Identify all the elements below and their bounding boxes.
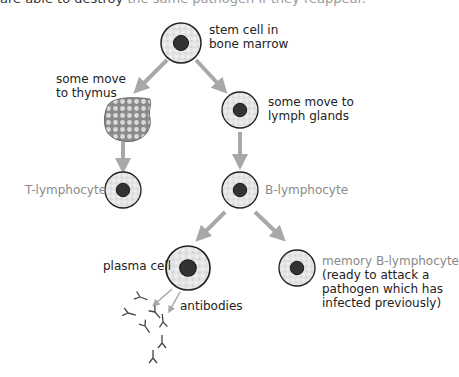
arrow-to-thymus <box>139 60 167 88</box>
antibodies-group <box>122 292 167 363</box>
stem-cell <box>161 23 201 63</box>
label-t-lymphocyte: T-lymphocyte <box>25 183 106 197</box>
antibody-arrow-2 <box>170 292 180 310</box>
label-b-lymphocyte: B-lymphocyte <box>265 183 348 197</box>
label-line: stem cell in <box>209 23 288 37</box>
plasma-cell <box>166 246 210 290</box>
antibody-icon <box>149 350 157 363</box>
antibody-arrow-1 <box>155 289 172 304</box>
label-line: to thymus <box>56 86 126 100</box>
label-antibodies: antibodies <box>180 299 243 313</box>
arrow-to-plasma-cell <box>201 212 225 236</box>
label-line: (ready to attack a <box>322 268 459 282</box>
label-memory: memory B-lymphocyte (ready to attack a p… <box>322 254 459 310</box>
memory-b-lymphocyte-cell <box>279 250 315 286</box>
antibody-icon <box>158 335 166 348</box>
label-lymph-glands: some move to lymph glands <box>268 95 354 123</box>
label-line: some move to <box>268 95 354 109</box>
antibody-icon <box>134 292 149 304</box>
antibody-icon <box>139 320 153 335</box>
lymph-gland-cell <box>222 92 258 128</box>
antibody-icon <box>149 306 163 321</box>
label-line: some move <box>56 72 126 86</box>
label-line: lymph glands <box>268 109 354 123</box>
thymus-illustration <box>104 98 150 142</box>
label-thymus: some move to thymus <box>56 72 126 100</box>
antibody-icon <box>122 308 137 319</box>
label-line: memory B-lymphocyte <box>322 254 459 268</box>
label-line: bone marrow <box>209 37 288 51</box>
b-lymphocyte-cell <box>222 172 258 208</box>
t-lymphocyte-cell <box>105 172 141 208</box>
antibody-icon <box>158 314 167 328</box>
label-plasma-cell: plasma cell <box>103 259 171 273</box>
label-line: infected previously) <box>322 296 459 310</box>
arrow-to-memory-cell <box>255 212 280 236</box>
arrow-to-lymph <box>196 60 222 88</box>
label-stem-cell: stem cell in bone marrow <box>209 23 288 51</box>
label-line: pathogen which has <box>322 282 459 296</box>
